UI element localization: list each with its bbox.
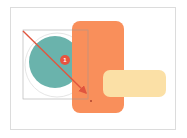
resize-handle-dot[interactable] [90,100,92,102]
yellow-rounded-rectangle[interactable] [103,70,166,97]
step-badge: 1 [60,55,70,65]
drawing-canvas[interactable]: 1 [0,0,187,138]
